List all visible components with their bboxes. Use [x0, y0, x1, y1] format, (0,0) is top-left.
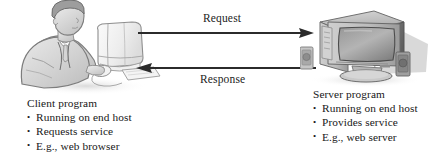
bullet-glyph: •	[313, 129, 316, 143]
list-item: •Requests service	[27, 124, 132, 138]
list-item: •E.g., web server	[313, 130, 418, 144]
person-at-computer-illustration	[14, 0, 166, 96]
desktop-computer-illustration	[300, 2, 434, 90]
server-caption-title: Server program	[313, 87, 418, 101]
server-left-speaker	[300, 47, 313, 69]
list-item: •Running on end host	[27, 110, 132, 124]
list-item-label: E.g., web server	[322, 131, 397, 143]
list-item-label: Requests service	[36, 125, 113, 137]
list-item-label: Running on end host	[36, 111, 132, 123]
list-item-label: Provides service	[322, 116, 398, 128]
bullet-glyph: •	[27, 138, 30, 152]
list-item: •E.g., web browser	[27, 139, 132, 153]
server-caption-block: Server program •Running on end host •Pro…	[313, 87, 418, 144]
list-item: •Running on end host	[313, 101, 418, 115]
list-item-label: E.g., web browser	[36, 140, 120, 152]
response-arrow-label: Response	[200, 73, 245, 85]
list-item: •Provides service	[313, 115, 418, 129]
client-bullet-list: •Running on end host •Requests service •…	[27, 110, 132, 153]
server-bullet-list: •Running on end host •Provides service •…	[313, 101, 418, 144]
server-right-speaker	[396, 52, 410, 76]
list-item-label: Running on end host	[322, 102, 418, 114]
client-server-diagram-figure: Request Response	[0, 0, 436, 156]
client-caption-title: Client program	[27, 96, 132, 110]
bullet-glyph: •	[313, 101, 316, 115]
bullet-glyph: •	[313, 115, 316, 129]
client-person	[21, 0, 104, 88]
request-arrow-label: Request	[203, 12, 241, 24]
bullet-glyph: •	[27, 124, 30, 138]
bullet-glyph: •	[27, 110, 30, 124]
request-arrow	[136, 22, 314, 46]
client-caption-block: Client program •Running on end host •Req…	[27, 96, 132, 153]
